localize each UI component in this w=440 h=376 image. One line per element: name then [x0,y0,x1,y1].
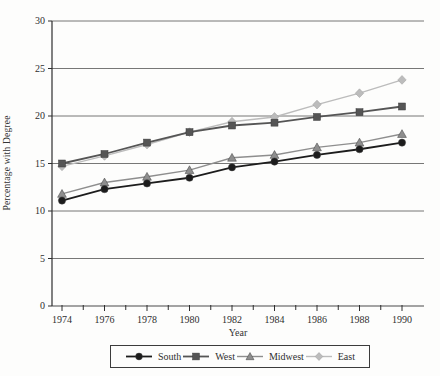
y-tick-label: 0 [15,300,45,312]
y-tick-label: 15 [15,158,45,170]
square-marker [229,122,236,129]
diamond-marker [315,353,323,361]
circle-marker [143,180,150,187]
x-tick-label: 1974 [44,314,80,326]
x-tick-label: 1982 [214,314,250,326]
diamond-marker [398,76,406,85]
circle-legend-icon [125,351,153,362]
legend-item-south: South [125,351,181,362]
y-tick-label: 30 [15,15,45,27]
triangle-marker [398,130,407,138]
square-marker [186,129,193,136]
circle-marker [271,158,278,165]
square-marker [356,109,363,116]
x-tick-label: 1978 [129,314,165,326]
triangle-legend-icon [236,351,264,362]
x-tick-label: 1984 [257,314,293,326]
legend-label: Midwest [269,351,304,362]
y-tick-label: 20 [15,110,45,122]
x-tick-label: 1986 [299,314,335,326]
circle-marker [356,146,363,153]
legend: SouthWestMidwestEast [110,345,370,368]
figure: Percentage with Degree Year SouthWestMid… [0,0,440,376]
y-tick-label: 10 [15,205,45,217]
x-tick-label: 1980 [172,314,208,326]
diamond-marker [313,100,321,109]
square-marker [193,353,200,360]
square-marker [144,139,151,146]
x-tick-label: 1988 [342,314,378,326]
circle-marker [136,353,143,360]
square-marker [314,113,321,120]
y-tick-label: 5 [15,253,45,265]
circle-marker [228,164,235,171]
circle-marker [58,197,65,204]
x-axis-title: Year [208,327,268,338]
legend-item-west: West [182,351,235,362]
circle-marker [313,151,320,158]
legend-label: West [215,351,235,362]
square-marker [271,119,278,126]
legend-item-midwest: Midwest [236,351,304,362]
y-axis-title: Percentage with Degree [2,97,16,229]
circle-marker [398,139,405,146]
y-tick-label: 25 [15,63,45,75]
circle-marker [186,174,193,181]
square-legend-icon [182,351,210,362]
diamond-marker [355,89,363,98]
square-marker [59,160,66,167]
x-tick-label: 1990 [384,314,420,326]
circle-marker [101,186,108,193]
square-marker [101,151,108,158]
legend-label: East [338,351,355,362]
legend-item-east: East [305,351,355,362]
legend-label: South [158,351,181,362]
diamond-legend-icon [305,351,333,362]
x-tick-label: 1976 [87,314,123,326]
square-marker [399,103,406,110]
